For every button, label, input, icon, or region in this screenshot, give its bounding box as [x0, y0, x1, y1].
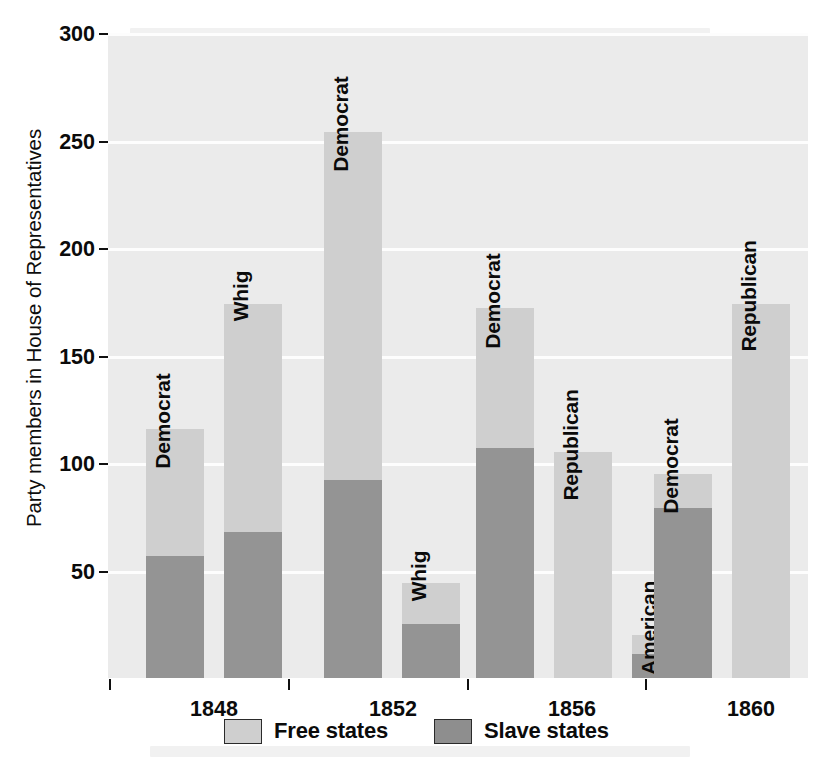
bar-segment-slave-states: [146, 556, 204, 679]
legend-label-slave-states: Slave states: [484, 718, 609, 744]
bar-1852-democrat: Democrat: [324, 132, 382, 678]
legend-swatch-slave-states: [434, 719, 472, 744]
legend-swatch-free-states: [224, 719, 262, 744]
bar-label-1856-democrat: Democrat: [481, 253, 505, 348]
bar-1848-democrat: Democrat: [146, 429, 204, 678]
bar-1848-whig: Whig: [224, 304, 282, 678]
x-tickmark-1856: [467, 679, 469, 690]
y-tick-label-200: 200: [25, 237, 95, 262]
chart-legend: Free states Slave states: [0, 718, 833, 744]
gridline-150: [108, 356, 808, 359]
bar-label-1860-democrat: Democrat: [659, 418, 683, 513]
bar-1856-republican: Republican: [554, 452, 612, 678]
y-tickmark-200: [99, 248, 108, 250]
gridline-100: [108, 463, 808, 466]
legend-label-free-states: Free states: [274, 718, 388, 744]
x-tickmark-1848: [109, 679, 111, 690]
bar-label-1848-whig: Whig: [229, 271, 253, 322]
bar-segment-slave-states: [654, 508, 712, 678]
bar-segment-free-states: [732, 304, 790, 678]
bar-segment-slave-states: [224, 532, 282, 678]
bar-1852-whig: Whig: [402, 583, 460, 678]
legend-item-slave-states: Slave states: [434, 718, 609, 744]
x-tickmark-1860: [645, 679, 647, 690]
bar-segment-slave-states: [324, 480, 382, 678]
y-tickmark-250: [99, 141, 108, 143]
y-tickmark-300: [99, 33, 108, 35]
bar-label-1856-republican: Republican: [559, 389, 583, 500]
y-tick-label-300: 300: [25, 22, 95, 47]
bar-1856-democrat: Democrat: [476, 308, 534, 678]
bar-chart-figure: Party members in House of Representative…: [0, 0, 833, 772]
bar-segment-free-states: [224, 304, 282, 532]
y-tick-label-100: 100: [25, 452, 95, 477]
legend-item-free-states: Free states: [224, 718, 388, 744]
y-tickmark-150: [99, 356, 108, 358]
y-tick-label-250: 250: [25, 129, 95, 154]
bar-label-1852-democrat: Democrat: [329, 76, 353, 171]
bar-1860-democrat: Democrat: [654, 474, 712, 678]
x-tickmark-1852: [288, 679, 290, 690]
gridline-250: [108, 141, 808, 144]
bar-label-1848-democrat: Democrat: [151, 373, 175, 468]
bar-segment-free-states: [324, 132, 382, 480]
y-tickmark-100: [99, 463, 108, 465]
bar-segment-slave-states: [476, 448, 534, 678]
bar-label-1860-republican: Republican: [737, 240, 761, 351]
y-tick-label-50: 50: [25, 559, 95, 584]
bar-label-1852-whig: Whig: [407, 551, 431, 602]
plot-area: 300 250 200 150 100 50 Democrat Whig Dem…: [108, 33, 808, 678]
y-tickmark-50: [99, 571, 108, 573]
bar-segment-slave-states: [402, 624, 460, 678]
bar-1860-republican: Republican: [732, 304, 790, 678]
y-tick-label-150: 150: [25, 344, 95, 369]
gridline-200: [108, 248, 808, 251]
gridline-300: [108, 33, 808, 36]
